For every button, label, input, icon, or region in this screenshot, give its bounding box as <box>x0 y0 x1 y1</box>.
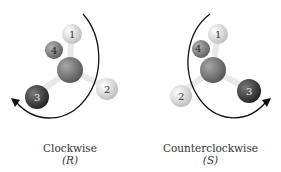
molecule-panel-counterclockwise: 4 1 2 3 Counterclockwise (S) <box>140 0 280 172</box>
atom-1: 1 <box>208 24 228 44</box>
atom-2: 2 <box>96 78 118 100</box>
svg-text:3: 3 <box>34 92 40 103</box>
direction-label: Counterclockwise <box>140 142 281 154</box>
direction-label: Clockwise <box>0 142 140 154</box>
caption-counterclockwise: Counterclockwise (S) <box>140 142 281 166</box>
center-atom <box>57 57 83 83</box>
svg-text:2: 2 <box>178 91 184 102</box>
svg-text:1: 1 <box>69 29 75 40</box>
svg-text:3: 3 <box>246 86 252 97</box>
configuration-label: (S) <box>140 154 281 166</box>
svg-text:4: 4 <box>195 43 201 54</box>
atom-1: 1 <box>62 24 82 44</box>
molecule-panel-clockwise: 4 1 2 3 Clockwise (R) <box>0 0 140 172</box>
atom-4: 4 <box>192 40 210 58</box>
atom-3: 3 <box>237 79 261 103</box>
svg-text:1: 1 <box>215 29 221 40</box>
atom-4: 4 <box>45 41 63 59</box>
center-atom <box>200 57 226 83</box>
svg-text:2: 2 <box>104 84 110 95</box>
caption-clockwise: Clockwise (R) <box>0 142 140 166</box>
clockwise-arrow-icon <box>11 14 99 118</box>
configuration-label: (R) <box>0 154 140 166</box>
svg-text:4: 4 <box>51 45 57 56</box>
atom-2: 2 <box>170 85 192 107</box>
counterclockwise-arrow-icon <box>188 14 271 118</box>
atom-3: 3 <box>25 85 49 109</box>
